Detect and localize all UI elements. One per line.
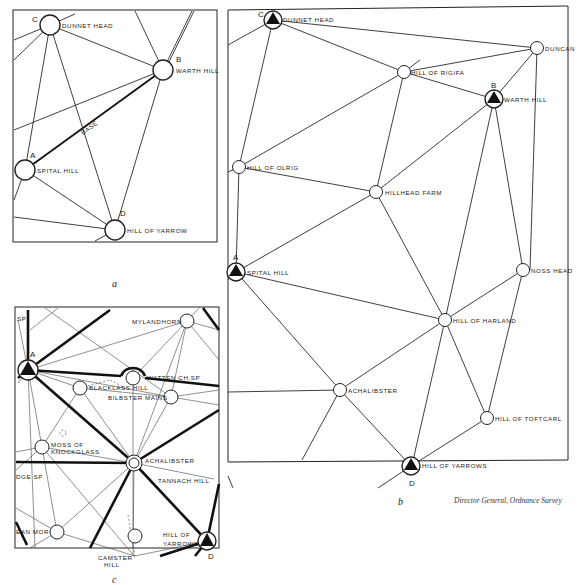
station-hill-of-olrig bbox=[233, 161, 246, 174]
station-achalibster-b bbox=[334, 384, 347, 397]
station-moss-of-knockglass bbox=[35, 440, 49, 454]
station-letter: C bbox=[32, 15, 38, 24]
panel-b: C DUNNET HEAD DUNCAN HILL OF RIGIFA B WA… bbox=[227, 6, 575, 507]
panel-c: SP A MYLANDHORN WATTEN CH.SP BLACKLASS H… bbox=[15, 307, 219, 585]
station-label: SPITAL HILL bbox=[247, 269, 289, 276]
station-hillhead-farm bbox=[370, 186, 383, 199]
station-warth-hill-b bbox=[485, 90, 503, 108]
credit-line: Director General, Ordnance Survey bbox=[453, 496, 562, 505]
station-label: HILL bbox=[104, 561, 119, 568]
panel-b-caption: b bbox=[398, 496, 403, 507]
station-label: HILL OF HARLAND bbox=[453, 317, 516, 324]
station-label: DUNNET HEAD bbox=[283, 16, 334, 23]
station-label: MOSS OF bbox=[51, 441, 84, 448]
station-hill-of-toftcarl bbox=[481, 412, 494, 425]
station-label: DGE SP bbox=[16, 473, 43, 480]
station-duncan bbox=[531, 42, 544, 55]
station-blacklass-hill bbox=[73, 381, 87, 395]
station-letter: D bbox=[409, 479, 415, 488]
station-camster-hill bbox=[128, 529, 142, 543]
station-achalibster-c bbox=[126, 455, 142, 471]
station-label: HILLHEAD FARM bbox=[385, 189, 442, 196]
station-label: BLACKLASS HILL bbox=[89, 384, 148, 391]
station-letter: A bbox=[233, 253, 239, 262]
station-label: KNOCKGLASS bbox=[51, 448, 100, 455]
station-label: HILL OF TOFTCARL bbox=[495, 415, 562, 422]
station-hill-of-yarrows-c bbox=[198, 532, 216, 550]
station-spital-hill-a bbox=[15, 160, 35, 180]
station-letter: D bbox=[208, 552, 214, 561]
station-label: MYLANDHORN bbox=[132, 318, 182, 325]
station-label: HILL OF bbox=[163, 531, 190, 538]
station-noss-head bbox=[517, 264, 530, 277]
station-hill-of-rigifa bbox=[398, 66, 411, 79]
station-label: EAN MOR bbox=[16, 528, 49, 535]
station-label: WARTH HILL bbox=[176, 67, 219, 74]
station-letter: B bbox=[491, 81, 496, 90]
station-label: HILL OF YARROWS bbox=[422, 462, 487, 469]
panel-a: C DUNNET HEAD B WARTH HILL A SPITAL HILL… bbox=[13, 10, 219, 289]
station-label: DUNCAN bbox=[545, 45, 575, 52]
panel-c-caption: c bbox=[112, 574, 117, 585]
station-label: DUNNET HEAD bbox=[62, 22, 113, 29]
station-ean-mor bbox=[50, 525, 64, 539]
station-label: HILL OF YARROW bbox=[127, 227, 188, 234]
panel-c-frame bbox=[15, 307, 219, 548]
station-label: HILL OF RIGIFA bbox=[411, 69, 465, 76]
station-label: SP bbox=[17, 315, 26, 322]
station-letter: D bbox=[120, 209, 126, 218]
station-letter: C bbox=[258, 10, 264, 19]
station-label: HILL OF OLRIG bbox=[247, 164, 299, 171]
station-warth-hill-a bbox=[153, 60, 173, 80]
station-hill-of-yarrows-b bbox=[402, 457, 420, 475]
faint-station-mark bbox=[60, 430, 66, 436]
station-a-c bbox=[18, 360, 38, 380]
panel-a-caption: a bbox=[112, 278, 117, 289]
station-label: ACHALIBSTER bbox=[145, 457, 195, 464]
station-label: CAMSTER bbox=[98, 554, 132, 561]
panel-a-frame bbox=[13, 10, 217, 242]
station-dunnet-head-a bbox=[40, 15, 60, 35]
station-label: WATTEN CH.SP bbox=[147, 374, 200, 381]
station-label: WARTH HILL bbox=[504, 96, 547, 103]
triangulation-figure: C DUNNET HEAD B WARTH HILL A SPITAL HILL… bbox=[0, 0, 579, 585]
station-hill-of-harland bbox=[439, 314, 452, 327]
station-label: ACHALIBSTER bbox=[348, 387, 398, 394]
station-letter: B bbox=[176, 55, 181, 64]
base-label: BASE bbox=[79, 119, 98, 136]
station-spital-hill-b bbox=[227, 263, 245, 281]
station-letter: A bbox=[30, 151, 36, 160]
station-label: BILBSTER MAINS bbox=[108, 394, 168, 401]
station-dunnet-head-b bbox=[264, 11, 282, 29]
station-watten-ch-sp bbox=[126, 371, 140, 385]
station-hill-of-yarrow-a bbox=[105, 220, 125, 240]
station-label: SPITAL HILL bbox=[37, 167, 79, 174]
station-label: NOSS HEAD bbox=[531, 267, 573, 274]
station-letter: A bbox=[30, 350, 36, 359]
station-label: YARROWS bbox=[163, 540, 199, 547]
station-mylandhorn bbox=[180, 314, 194, 328]
station-label: TANNACH HILL bbox=[158, 477, 209, 484]
